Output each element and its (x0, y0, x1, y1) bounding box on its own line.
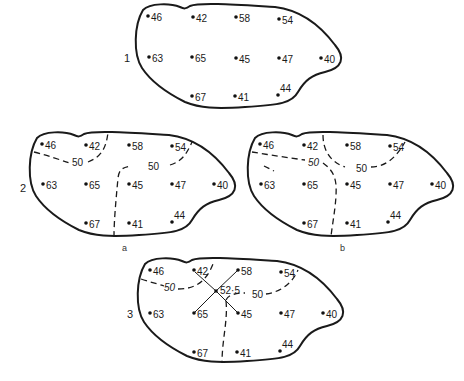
station-dot (319, 56, 323, 60)
station-dot (127, 221, 131, 225)
station-value: 45 (132, 180, 144, 191)
station-group: 464258546365454740674144 (148, 266, 337, 359)
station-value: 54 (284, 268, 296, 279)
station-dot (127, 182, 131, 186)
station-dot (192, 311, 196, 315)
station-value: 40 (324, 54, 336, 65)
station-value: 42 (89, 141, 101, 152)
interpolated-value: 52·5 (220, 285, 240, 296)
contour-label: 50 (72, 157, 84, 168)
station-value: 65 (195, 53, 207, 64)
panel-label: 3 (127, 308, 133, 320)
contour-label: 50 (164, 282, 176, 293)
panel-2b: b 50 50 464258546365454740674144 (248, 132, 453, 253)
station-value: 45 (241, 309, 253, 320)
station-dot (212, 182, 216, 186)
isohyet-50-east (114, 166, 132, 237)
station-dot (279, 311, 283, 315)
isohyet-50-north (323, 135, 345, 167)
station-value: 47 (284, 309, 296, 320)
station-value: 42 (197, 266, 209, 277)
station-dot (84, 182, 88, 186)
isohyet-50-west (141, 279, 164, 286)
station-dot (277, 17, 281, 21)
station-dot (430, 182, 434, 186)
station-value: 54 (393, 142, 405, 153)
station-value: 42 (196, 13, 208, 24)
station-value: 65 (307, 180, 319, 191)
station-dot (192, 268, 196, 272)
station-value: 46 (151, 12, 163, 23)
station-value: 65 (197, 309, 209, 320)
station-value: 63 (46, 180, 58, 191)
station-dot (345, 143, 349, 147)
station-dot (302, 221, 306, 225)
station-value: 47 (175, 180, 187, 191)
panel-sublabel: b (340, 243, 345, 253)
isohyet-50-west (252, 152, 305, 160)
station-dot (234, 15, 238, 19)
station-dot (235, 350, 239, 354)
contour-label: 50 (308, 157, 320, 168)
station-value: 58 (239, 13, 251, 24)
station-dot (191, 15, 195, 19)
station-group: 464258546365454740674144 (258, 140, 446, 230)
station-value: 67 (195, 92, 207, 103)
isohyet-50-west (34, 152, 70, 163)
station-dot (236, 268, 240, 272)
panel-label: 2 (20, 182, 26, 194)
panel-3: 3 50 50 52·5 464258546365454740674144 (127, 258, 343, 363)
station-value: 67 (89, 219, 101, 230)
station-dot (321, 311, 325, 315)
station-dot (234, 56, 238, 60)
station-group: 464258546365454740674144 (146, 12, 335, 103)
station-value: 58 (132, 141, 144, 152)
station-dot (40, 142, 44, 146)
station-value: 40 (435, 180, 447, 191)
station-value: 54 (175, 142, 187, 153)
station-dot (147, 55, 151, 59)
isohyet-figure: 1 464258546365454740674144 2 a 50 50 464… (0, 0, 464, 381)
station-value: 45 (350, 180, 362, 191)
station-value: 46 (153, 266, 165, 277)
panel-1: 1 464258546365454740674144 (124, 4, 341, 108)
panel-sublabel: a (122, 243, 127, 253)
contour-label: 50 (252, 289, 264, 300)
station-value: 44 (280, 83, 292, 94)
station-dot (148, 311, 152, 315)
station-dot (41, 182, 45, 186)
station-dot (84, 143, 88, 147)
station-value: 41 (240, 348, 252, 359)
station-value: 67 (197, 348, 209, 359)
station-value: 63 (264, 180, 276, 191)
station-value: 46 (45, 140, 57, 151)
station-dot (170, 182, 174, 186)
station-dot (345, 182, 349, 186)
station-value: 41 (132, 219, 144, 230)
station-value: 45 (239, 54, 251, 65)
station-value: 44 (390, 210, 402, 221)
station-dot (277, 56, 281, 60)
station-value: 44 (174, 210, 186, 221)
station-value: 42 (307, 141, 319, 152)
contour-label: 50 (356, 163, 368, 174)
station-value: 63 (153, 309, 165, 320)
station-value: 67 (307, 219, 319, 230)
station-dot (302, 143, 306, 147)
station-dot (388, 144, 392, 148)
station-group: 464258546365454740674144 (40, 140, 228, 230)
station-dot (127, 143, 131, 147)
station-dot (259, 182, 263, 186)
station-dot (233, 94, 237, 98)
station-dot (258, 142, 262, 146)
station-value: 41 (350, 219, 362, 230)
panel-label: 1 (124, 52, 130, 64)
station-value: 46 (263, 140, 275, 151)
panel-2a: 2 a 50 50 464258546365454740674144 (20, 132, 235, 253)
station-value: 47 (393, 180, 405, 191)
station-value: 47 (282, 54, 294, 65)
station-value: 63 (152, 53, 164, 64)
station-dot (190, 94, 194, 98)
station-value: 58 (350, 141, 362, 152)
station-dot (345, 221, 349, 225)
